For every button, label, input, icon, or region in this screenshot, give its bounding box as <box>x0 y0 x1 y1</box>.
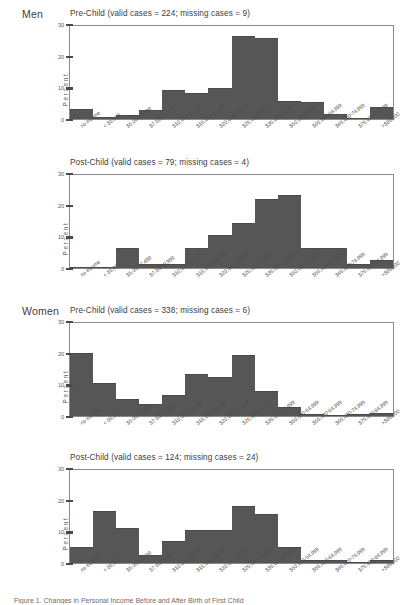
bar-slot <box>93 175 116 268</box>
y-axis-label-wrap: Percent <box>36 492 46 542</box>
y-axis-label-wrap: Percent <box>36 197 46 247</box>
y-axis-tick-label: 30 <box>48 466 64 472</box>
y-axis-tick-mark <box>66 563 73 565</box>
y-axis-tick-mark <box>66 468 73 470</box>
y-axis-tick-mark <box>66 236 73 238</box>
group-label-men: Men <box>22 8 43 20</box>
y-axis-tick-mark <box>66 268 73 270</box>
group-label-women: Women <box>22 305 59 317</box>
bar-slot <box>70 175 93 268</box>
figure-caption: Figure 1. Changes in Personal Income Bef… <box>14 597 404 604</box>
panel-title: Pre-Child (valid cases = 224; missing ca… <box>70 9 250 18</box>
bar-slot <box>116 323 139 416</box>
bar-slot <box>139 470 162 563</box>
y-axis-tick-label: 0 <box>48 117 64 123</box>
y-axis-label-wrap: Percent <box>36 48 46 98</box>
plot-area <box>69 322 394 417</box>
y-axis-tick-label: 0 <box>48 561 64 567</box>
bar-slot <box>70 470 93 563</box>
figure-container: Men Pre-Child (valid cases = 224; missin… <box>0 0 411 605</box>
bar-series <box>70 175 393 268</box>
y-axis-tick-mark <box>66 384 73 386</box>
bar-series <box>70 323 393 416</box>
y-axis-tick-label: 10 <box>48 85 64 91</box>
y-axis-tick-label: 20 <box>48 351 64 357</box>
bar-slot <box>162 470 185 563</box>
y-axis-tick-label: 0 <box>48 266 64 272</box>
bar-slot <box>162 175 185 268</box>
bar <box>70 353 93 416</box>
plot-area <box>69 469 394 564</box>
y-axis-tick-label: 20 <box>48 54 64 60</box>
y-axis-tick-mark <box>66 205 73 207</box>
y-axis-tick-label: 20 <box>48 203 64 209</box>
panel-title: Post-Child (valid cases = 124; missing c… <box>70 453 258 462</box>
y-axis-tick-label: 10 <box>48 382 64 388</box>
bar-slot <box>139 175 162 268</box>
y-axis-tick-mark <box>66 353 73 355</box>
y-axis-tick-mark <box>66 119 73 121</box>
y-axis-tick-label: 30 <box>48 22 64 28</box>
y-axis-tick-mark <box>66 321 73 323</box>
bar-slot <box>116 470 139 563</box>
y-axis-tick-label: 10 <box>48 234 64 240</box>
y-axis-tick-label: 20 <box>48 498 64 504</box>
y-axis-tick-mark <box>66 56 73 58</box>
y-axis-label-wrap: Percent <box>36 345 46 395</box>
bar-series <box>70 470 393 563</box>
y-axis-tick-label: 30 <box>48 171 64 177</box>
y-axis-tick-label: 0 <box>48 414 64 420</box>
bar-slot <box>70 26 93 119</box>
y-axis-tick-mark <box>66 87 73 89</box>
bar-slot <box>139 26 162 119</box>
y-axis-tick-mark <box>66 24 73 26</box>
bar-slot <box>162 26 185 119</box>
bar-slot <box>93 26 116 119</box>
y-axis-tick-label: 10 <box>48 529 64 535</box>
y-axis-tick-mark <box>66 416 73 418</box>
panel-title: Post-Child (valid cases = 79; missing ca… <box>70 158 249 167</box>
plot-area <box>69 174 394 269</box>
y-axis-tick-label: 30 <box>48 319 64 325</box>
bar-slot <box>93 470 116 563</box>
plot-area <box>69 25 394 120</box>
y-axis-tick-mark <box>66 500 73 502</box>
bar-slot <box>116 175 139 268</box>
bar-slot <box>139 323 162 416</box>
bar-slot <box>162 323 185 416</box>
bar-slot <box>116 26 139 119</box>
y-axis-tick-mark <box>66 173 73 175</box>
panel-title: Pre-Child (valid cases = 338; missing ca… <box>70 306 250 315</box>
bar-series <box>70 26 393 119</box>
y-axis-tick-mark <box>66 531 73 533</box>
bar-slot <box>70 323 93 416</box>
bar-slot <box>93 323 116 416</box>
